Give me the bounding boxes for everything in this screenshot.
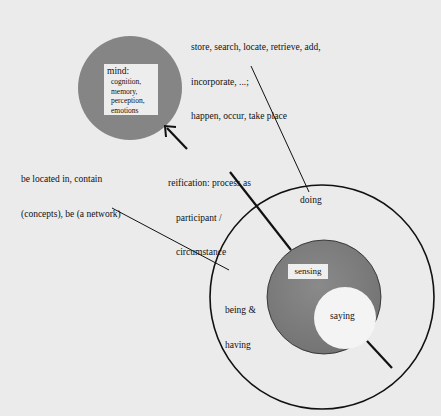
annotation-line: (concepts), be (a network)	[21, 209, 121, 221]
annotation-line: store, search, locate, retrieve, add,	[191, 42, 321, 54]
region-label-line: being &	[225, 305, 256, 317]
annotation-line: happen, occur, take place	[191, 111, 321, 123]
region-label-sensing: sensing	[288, 264, 328, 279]
annotation-line: circumstance	[168, 247, 251, 259]
mind-item: cognition,	[107, 77, 158, 87]
mind-item: perception,	[107, 96, 158, 106]
mind-label-box: mind: cognition, memory, perception, emo…	[104, 64, 158, 115]
mind-title: mind:	[107, 66, 158, 77]
annotation-line: incorporate, ...;	[191, 77, 321, 89]
annotation-reification: reification: process as participant / ci…	[168, 155, 251, 270]
reification-arrow-icon	[165, 126, 187, 149]
mind-item: emotions	[107, 106, 158, 116]
annotation-line: participant /	[168, 213, 251, 225]
annotation-being-processes: be located in, contain (concepts), be (a…	[21, 151, 121, 232]
annotation-line: be located in, contain	[21, 174, 121, 186]
divider-line-lower	[367, 341, 392, 368]
region-label-saying: saying	[330, 311, 355, 323]
annotation-doing-processes: store, search, locate, retrieve, add, in…	[191, 19, 321, 134]
mind-item: memory,	[107, 87, 158, 97]
region-label-line: having	[225, 340, 256, 352]
region-label-doing: doing	[300, 195, 322, 207]
region-label-being-having: being & having	[225, 282, 256, 363]
annotation-line: reification: process as	[168, 178, 251, 190]
